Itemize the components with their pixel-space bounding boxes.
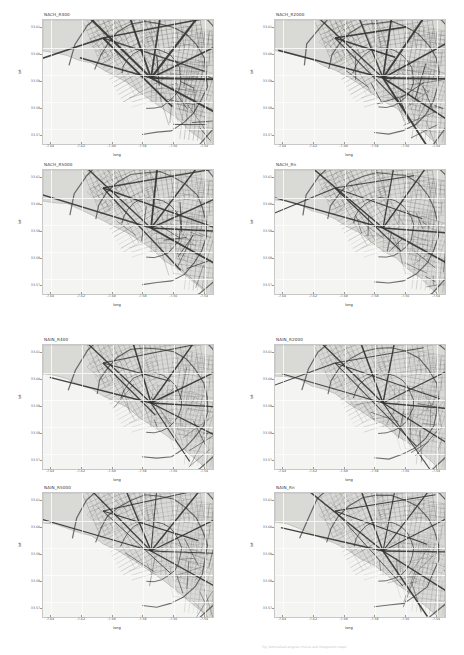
y-tick-label: 33.60: [263, 377, 272, 381]
x-tick-mark: [112, 467, 113, 469]
horizontal-gridline: [43, 454, 213, 455]
x-tick-label: -7.54: [432, 617, 440, 621]
x-tick-label: -7.62: [77, 144, 85, 148]
x-tick-mark: [313, 292, 314, 294]
x-axis-ticks: -7.64-7.62-7.60-7.58-7.56-7.54: [274, 469, 444, 477]
vertical-gridline: [283, 170, 284, 294]
vertical-gridline: [437, 345, 438, 469]
x-tick-mark: [405, 292, 406, 294]
map-panel-nach_rn: NACH_Rn33.6133.6033.5933.5833.57-7.64-7.…: [244, 162, 450, 312]
vertical-gridline: [375, 345, 376, 469]
vertical-gridline: [51, 170, 52, 294]
y-tick-label: 33.57: [263, 283, 272, 287]
x-tick-mark: [204, 142, 205, 144]
vertical-gridline: [82, 493, 83, 617]
y-axis-ticks: 33.6133.6033.5933.5833.57: [244, 492, 272, 616]
x-tick-label: -7.56: [401, 469, 409, 473]
vertical-gridline: [375, 20, 376, 144]
map-canvas: [275, 170, 445, 294]
y-axis-ticks: 33.6133.6033.5933.5833.57: [12, 19, 40, 143]
x-tick-mark: [50, 292, 51, 294]
x-tick-mark: [142, 615, 143, 617]
horizontal-gridline: [43, 521, 213, 522]
map-plot-area: [274, 492, 446, 618]
x-tick-mark: [344, 142, 345, 144]
vertical-gridline: [143, 493, 144, 617]
x-tick-label: -7.58: [138, 469, 146, 473]
x-tick-mark: [436, 292, 437, 294]
x-tick-label: -7.64: [46, 469, 54, 473]
vertical-gridline: [283, 345, 284, 469]
map-panel-nach_r2000: NACH_R200033.6133.6033.5933.5833.57-7.64…: [244, 12, 450, 162]
x-tick-mark: [204, 292, 205, 294]
y-axis-ticks: 33.6133.6033.5933.5833.57: [12, 169, 40, 293]
x-tick-mark: [374, 142, 375, 144]
x-tick-label: -7.58: [138, 617, 146, 621]
x-tick-label: -7.60: [107, 469, 115, 473]
y-tick-label: 33.59: [31, 79, 40, 83]
y-tick-label: 33.61: [31, 175, 40, 179]
y-tick-label: 33.59: [263, 404, 272, 408]
x-tick-mark: [344, 615, 345, 617]
y-tick-label: 33.60: [31, 377, 40, 381]
y-tick-label: 33.58: [263, 106, 272, 110]
y-axis-label: lat: [18, 69, 22, 74]
y-tick-label: 33.59: [31, 404, 40, 408]
x-axis-label: long: [113, 626, 121, 630]
x-tick-label: -7.60: [339, 469, 347, 473]
x-axis-ticks: -7.64-7.62-7.60-7.58-7.56-7.54: [42, 294, 212, 302]
x-axis-ticks: -7.64-7.62-7.60-7.58-7.56-7.54: [42, 144, 212, 152]
x-tick-mark: [112, 615, 113, 617]
x-tick-label: -7.64: [46, 294, 54, 298]
x-axis-ticks: -7.64-7.62-7.60-7.58-7.56-7.54: [274, 144, 444, 152]
y-axis-label: lat: [250, 219, 254, 224]
horizontal-gridline: [43, 373, 213, 374]
y-axis-label: lat: [250, 69, 254, 74]
vertical-gridline: [345, 20, 346, 144]
map-plot-area: [274, 19, 446, 145]
x-tick-label: -7.56: [401, 144, 409, 148]
panel-title: NACH_R400: [44, 12, 70, 18]
vertical-gridline: [143, 170, 144, 294]
vertical-gridline: [283, 20, 284, 144]
horizontal-gridline: [43, 225, 213, 226]
y-axis-ticks: 33.6133.6033.5933.5833.57: [244, 19, 272, 143]
x-axis-ticks: -7.64-7.62-7.60-7.58-7.56-7.54: [42, 617, 212, 625]
vertical-gridline: [113, 345, 114, 469]
map-panel-nain_r2000: NAIN_R200033.6133.6033.5933.5833.57-7.64…: [244, 337, 450, 487]
y-tick-label: 33.58: [263, 256, 272, 260]
y-tick-label: 33.57: [263, 133, 272, 137]
vertical-gridline: [314, 20, 315, 144]
x-tick-mark: [142, 292, 143, 294]
vertical-gridline: [174, 20, 175, 144]
y-tick-label: 33.58: [31, 431, 40, 435]
horizontal-gridline: [43, 548, 213, 549]
y-axis-ticks: 33.6133.6033.5933.5833.57: [12, 492, 40, 616]
x-tick-label: -7.60: [339, 617, 347, 621]
y-axis-ticks: 33.6133.6033.5933.5833.57: [12, 344, 40, 468]
x-tick-label: -7.60: [107, 617, 115, 621]
x-tick-label: -7.58: [370, 294, 378, 298]
horizontal-gridline: [43, 75, 213, 76]
map-canvas: [275, 20, 445, 144]
x-tick-mark: [436, 467, 437, 469]
x-tick-mark: [50, 467, 51, 469]
y-tick-label: 33.61: [31, 25, 40, 29]
x-tick-label: -7.54: [432, 469, 440, 473]
y-axis-label: lat: [250, 394, 254, 399]
x-tick-label: -7.56: [401, 294, 409, 298]
y-tick-label: 33.59: [263, 229, 272, 233]
x-axis-ticks: -7.64-7.62-7.60-7.58-7.56-7.54: [274, 294, 444, 302]
y-tick-label: 33.61: [31, 498, 40, 502]
vertical-gridline: [82, 170, 83, 294]
y-tick-label: 33.60: [31, 52, 40, 56]
vertical-gridline: [51, 20, 52, 144]
x-tick-mark: [50, 142, 51, 144]
x-tick-label: -7.54: [200, 617, 208, 621]
vertical-gridline: [143, 345, 144, 469]
map-panel-nain_r5000: NAIN_R500033.6133.6033.5933.5833.57-7.64…: [12, 485, 218, 635]
horizontal-gridline: [275, 521, 445, 522]
vertical-gridline: [406, 345, 407, 469]
vertical-gridline: [51, 493, 52, 617]
vertical-gridline: [345, 345, 346, 469]
